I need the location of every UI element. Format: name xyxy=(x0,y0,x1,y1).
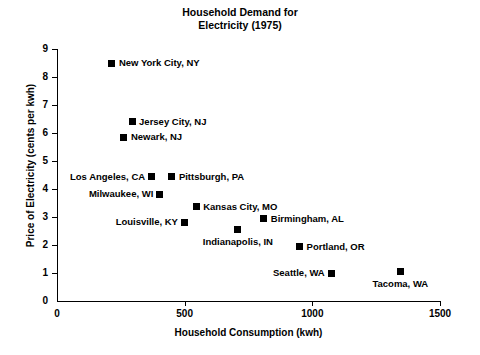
y-tick-mark xyxy=(52,217,57,218)
scatter-point[interactable] xyxy=(193,203,200,210)
scatter-point[interactable] xyxy=(181,219,188,226)
x-axis-label: Household Consumption (kwh) xyxy=(57,327,440,338)
y-axis-line xyxy=(57,49,58,301)
x-tick-mark xyxy=(440,301,441,306)
scatter-point[interactable] xyxy=(108,60,115,67)
scatter-point[interactable] xyxy=(148,173,155,180)
y-tick-mark xyxy=(52,49,57,50)
scatter-point[interactable] xyxy=(129,118,136,125)
scatter-point[interactable] xyxy=(296,243,303,250)
y-tick-mark xyxy=(52,273,57,274)
scatter-point[interactable] xyxy=(234,226,241,233)
scatter-point[interactable] xyxy=(328,270,335,277)
scatter-point-label: Seattle, WA xyxy=(273,268,325,278)
y-tick-label: 0 xyxy=(22,296,48,306)
y-axis-label: Price of Electricity (cents per kwh) xyxy=(25,51,36,281)
x-tick-mark xyxy=(312,301,313,306)
scatter-point-label: Los Angeles, CA xyxy=(70,172,145,182)
y-tick-mark xyxy=(52,245,57,246)
y-tick-mark xyxy=(52,105,57,106)
chart-title: Household Demand for Electricity (1975) xyxy=(0,6,480,32)
y-tick-mark xyxy=(52,77,57,78)
chart-title-line-1: Household Demand for xyxy=(0,6,480,19)
scatter-point-label: Kansas City, MO xyxy=(203,202,277,212)
x-tick-label: 0 xyxy=(27,309,87,319)
scatter-point-label: Portland, OR xyxy=(307,242,365,252)
scatter-point-label: Louisville, KY xyxy=(116,217,178,227)
x-tick-label: 500 xyxy=(155,309,215,319)
y-tick-mark xyxy=(52,133,57,134)
scatter-point-label: Newark, NJ xyxy=(131,132,182,142)
chart-title-line-2: Electricity (1975) xyxy=(0,19,480,32)
scatter-point-label: Birmingham, AL xyxy=(271,214,344,224)
x-axis-line xyxy=(57,301,440,302)
scatter-point-label: Tacoma, WA xyxy=(372,279,428,289)
x-tick-label: 1500 xyxy=(410,309,470,319)
y-tick-mark xyxy=(52,161,57,162)
scatter-point[interactable] xyxy=(397,268,404,275)
y-tick-mark xyxy=(52,189,57,190)
x-tick-label: 1000 xyxy=(282,309,342,319)
scatter-point[interactable] xyxy=(156,191,163,198)
chart-figure: Household Demand for Electricity (1975) … xyxy=(0,0,480,355)
x-tick-mark xyxy=(185,301,186,306)
scatter-point-label: Pittsburgh, PA xyxy=(179,172,244,182)
scatter-point-label: Jersey City, NJ xyxy=(139,117,206,127)
scatter-point[interactable] xyxy=(260,215,267,222)
scatter-point[interactable] xyxy=(168,173,175,180)
scatter-point-label: Milwaukee, WI xyxy=(89,189,153,199)
scatter-point-label: New York City, NY xyxy=(119,58,200,68)
scatter-point[interactable] xyxy=(120,134,127,141)
scatter-point-label: Indianapolis, IN xyxy=(203,237,273,247)
